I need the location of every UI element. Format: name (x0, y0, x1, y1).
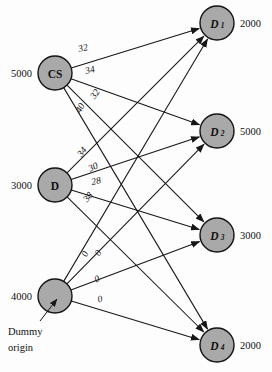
supply-value-cs: 5000 (11, 68, 32, 79)
dummy-origin-label-line1: Dummy (8, 326, 43, 337)
node-subscript-d4: 4 (220, 343, 225, 352)
node-label-d4: D (209, 340, 219, 352)
network-diagram: CS5000D30004000D12000D25000D33000D42000 … (0, 0, 272, 372)
nodes-layer: CS5000D30004000D12000D25000D33000D42000 (11, 6, 261, 362)
node-label-d1: D (209, 18, 219, 30)
destination-node-d4[interactable]: D42000 (200, 328, 261, 362)
cost-label-d-d4: 38 (80, 190, 95, 205)
origin-node-dummy[interactable]: 4000 (11, 279, 72, 313)
edge-cs-to-d1 (71, 28, 199, 68)
cost-label-cs-d1: 32 (76, 42, 89, 54)
node-label-d2: D (209, 126, 219, 138)
supply-value-dummy: 4000 (11, 291, 32, 302)
edge-cs-to-d4 (64, 88, 208, 329)
network-diagram-canvas: CS5000D30004000D12000D25000D33000D42000 … (0, 0, 272, 372)
node-label-cs: CS (48, 68, 63, 80)
edge-dummy-to-d4 (71, 301, 199, 340)
node-subscript-d3: 3 (220, 233, 225, 242)
supply-value-d: 3000 (11, 180, 32, 191)
node-subscript-d1: 1 (221, 21, 225, 30)
origin-node-d[interactable]: D3000 (11, 168, 72, 202)
demand-value-d1: 2000 (240, 18, 261, 29)
cost-label-d-d1: 34 (75, 145, 89, 160)
node-subscript-d2: 2 (220, 129, 225, 138)
cost-label-cs-d2: 34 (83, 64, 96, 76)
dummy-origin-label-line2: origin (8, 342, 34, 353)
demand-value-d4: 2000 (240, 340, 261, 351)
destination-node-d2[interactable]: D25000 (200, 114, 261, 148)
cost-label-dummy-d4: 0 (97, 294, 104, 305)
cost-label-d-d3: 28 (90, 175, 102, 187)
cost-label-dummy-d1: 0 (79, 250, 90, 259)
destination-node-d3[interactable]: D33000 (200, 218, 261, 252)
node-label-d: D (51, 180, 59, 192)
demand-value-d3: 3000 (240, 230, 261, 241)
node-label-d3: D (209, 230, 219, 242)
node-circle-dummy (38, 279, 72, 313)
edges-layer (64, 28, 208, 339)
edge-dummy-to-d1 (64, 39, 208, 281)
destination-node-d1[interactable]: D12000 (200, 6, 261, 40)
origin-node-cs[interactable]: CS5000 (11, 56, 72, 90)
cost-label-d-d2: 30 (86, 160, 100, 174)
edge-d-to-d4 (67, 197, 204, 332)
demand-value-d2: 5000 (240, 126, 261, 137)
